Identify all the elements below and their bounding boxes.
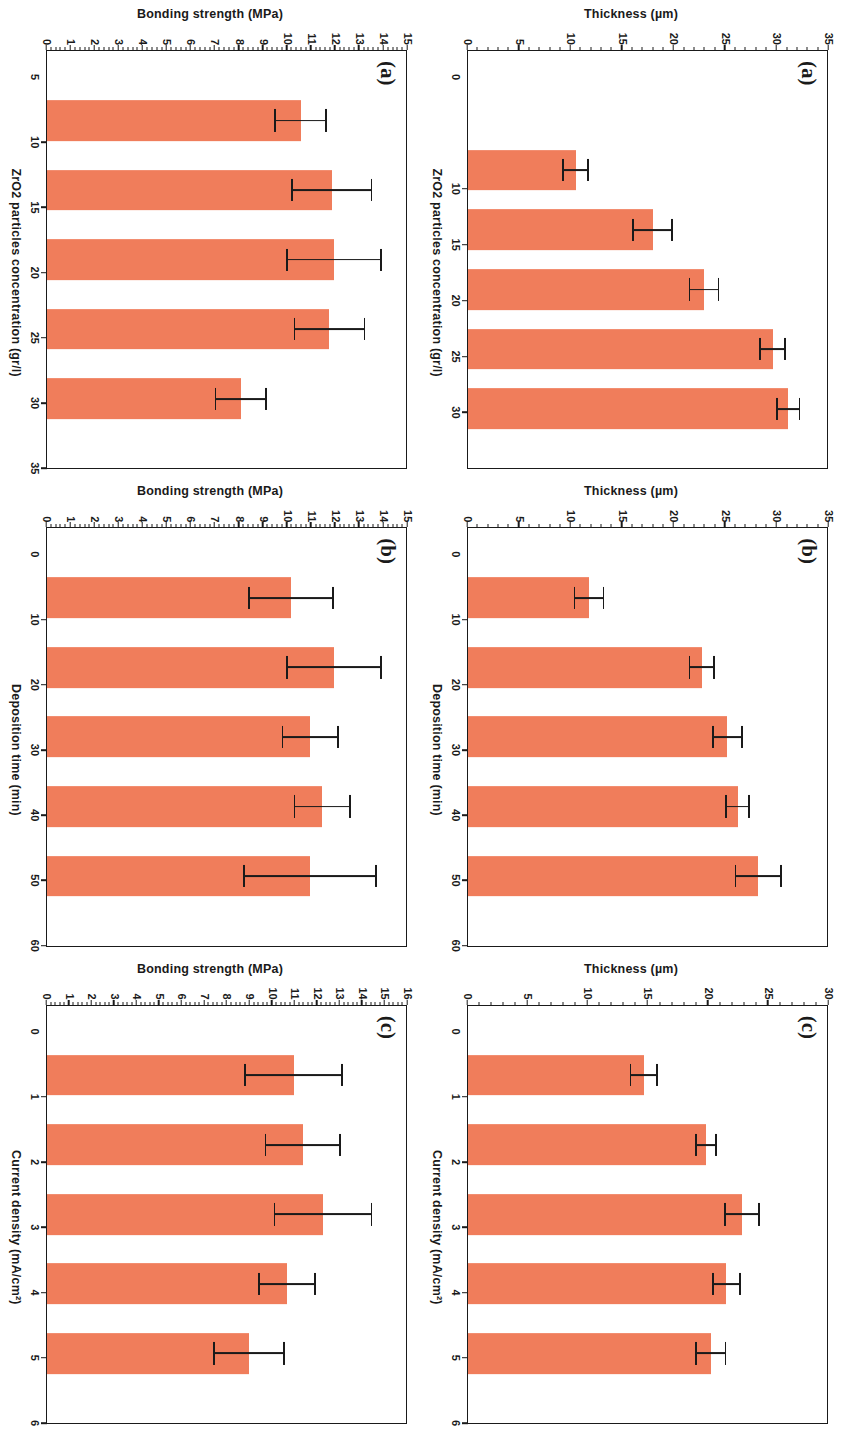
y-axis-label-text: Thickness (µm) <box>584 962 678 976</box>
y-tick-column-c-bonding: 012345678910111213141516 <box>46 979 407 1005</box>
error-bar <box>286 656 382 678</box>
x-tick-mark <box>41 1357 47 1359</box>
y-tick-label: 10 <box>582 987 593 999</box>
error-bar <box>725 795 750 817</box>
x-tick-mark <box>41 337 47 339</box>
y-tick-label: 11 <box>305 511 316 523</box>
bar-slot <box>468 635 827 701</box>
error-bar-cap-top <box>314 1273 316 1295</box>
error-bar-line <box>562 169 589 171</box>
plot-box-b-thickness: 1020304050600Deposition time (min)(b) <box>467 527 828 946</box>
x-origin-label: 0 <box>450 1029 462 1035</box>
y-tick-label: 13 <box>353 510 364 522</box>
y-tick-label: 20 <box>668 33 679 45</box>
x-tick-row-b-thickness: 1020304050600 <box>442 554 468 945</box>
x-axis-label-a-thickness: ZrO2 particles concentration (gr/l) <box>430 77 444 468</box>
plot-box-c-thickness: 1234560Current density (mA/cm²)(c) <box>467 1005 828 1424</box>
x-tick-row-c-bonding: 1234560 <box>21 1032 47 1423</box>
plot-box-b-bonding: 1020304050600Deposition time (min)(b) <box>46 527 407 946</box>
error-bar <box>574 587 605 609</box>
plot-area-b-bonding: 01234567891011121314151020304050600Depos… <box>46 501 407 946</box>
error-bar-line <box>244 1074 343 1076</box>
y-tick-label: 10 <box>565 510 576 522</box>
bar-series-b-thickness <box>468 528 827 945</box>
error-bar-cap-top <box>603 587 605 609</box>
error-bar <box>294 795 351 817</box>
error-bar-cap-bottom <box>632 219 634 241</box>
bar-slot <box>468 565 827 631</box>
y-tick-column-b-thickness: 05101520253035 <box>467 501 828 527</box>
chart-c-thickness: Thickness (µm)0510152025301234560Current… <box>421 955 842 1432</box>
x-tick-label: 15 <box>29 201 41 213</box>
y-tick-label: 35 <box>823 33 834 45</box>
error-bar-line <box>274 1213 373 1215</box>
error-bar-cap-bottom <box>265 1134 267 1156</box>
bar <box>47 717 310 758</box>
x-tick-mark <box>462 880 468 882</box>
error-bar-line <box>632 229 673 231</box>
x-tick-label: 10 <box>29 136 41 148</box>
x-axis-label-c-thickness: Current density (mA/cm²) <box>430 1032 444 1423</box>
bar <box>47 786 322 827</box>
error-bar-cap-top <box>671 219 673 241</box>
error-bar <box>244 1064 343 1086</box>
error-bar-cap-bottom <box>294 795 296 817</box>
error-bar-line <box>294 328 366 330</box>
error-bar <box>689 656 716 678</box>
error-bar-cap-top <box>739 1273 741 1295</box>
error-bar <box>724 1203 760 1225</box>
y-tick-label: 35 <box>823 510 834 522</box>
x-tick-mark <box>462 1357 468 1359</box>
error-bar-line <box>243 875 377 877</box>
error-bar <box>632 219 673 241</box>
x-tick-row-a-bonding: 1015202530355 <box>21 77 47 468</box>
error-bar-cap-bottom <box>712 1273 714 1295</box>
y-axis-label-text: Bonding strength (MPa) <box>137 7 283 21</box>
bar-series-b-bonding <box>47 528 406 945</box>
x-axis-label-b-thickness: Deposition time (min) <box>430 554 444 945</box>
error-bar <box>776 398 801 420</box>
x-tick-mark <box>41 141 47 143</box>
x-tick-row-b-bonding: 1020304050600 <box>21 554 47 945</box>
panel-letter-c-bonding: (c) <box>375 1016 400 1039</box>
bar-series-a-thickness <box>468 51 827 468</box>
plot-box-a-bonding: 1015202530355ZrO2 particles concentratio… <box>46 50 407 469</box>
plot-area-c-bonding: 0123456789101112131415161234560Current d… <box>46 979 407 1424</box>
bar-slot <box>47 1181 406 1247</box>
y-tick-label: 11 <box>305 33 316 45</box>
error-bar-cap-top <box>265 388 267 410</box>
error-bar-cap-top <box>349 795 351 817</box>
bar <box>468 1264 726 1305</box>
figure-stage: Thickness (µm)0510152025303510152025300Z… <box>0 0 842 1432</box>
error-bar-line <box>215 398 268 400</box>
y-axis-label-a-bonding: Bonding strength (MPa) <box>0 4 421 24</box>
panel-letter-a-bonding: (a) <box>375 61 400 86</box>
bar <box>47 170 332 211</box>
x-tick-label: 30 <box>450 406 462 418</box>
error-bar-cap-top <box>332 587 334 609</box>
x-tick-label: 60 <box>29 940 41 952</box>
y-tick-label: 25 <box>719 33 730 45</box>
error-bar <box>712 1273 741 1295</box>
error-bar-cap-bottom <box>574 587 576 609</box>
y-tick-label: 15 <box>379 987 390 999</box>
y-tick-label: 30 <box>771 33 782 45</box>
y-tick-label: 12 <box>311 987 322 999</box>
y-tick-label: 15 <box>642 987 653 999</box>
x-tick-mark <box>41 814 47 816</box>
error-bar-line <box>630 1074 659 1076</box>
x-tick-label: 60 <box>450 940 462 952</box>
error-bar-line <box>695 1144 717 1146</box>
bar <box>468 388 788 429</box>
x-tick-mark <box>41 1292 47 1294</box>
x-origin-label: 5 <box>29 74 41 80</box>
x-tick-label: 30 <box>450 744 462 756</box>
x-tick-label: 25 <box>450 350 462 362</box>
error-bar-cap-bottom <box>282 726 284 748</box>
y-axis-label-b-bonding: Bonding strength (MPa) <box>0 481 421 501</box>
x-tick-label: 25 <box>29 332 41 344</box>
x-tick-mark <box>462 1422 468 1424</box>
plot-box-a-thickness: 10152025300ZrO2 particles concentration … <box>467 50 828 469</box>
bar-series-c-bonding <box>47 1006 406 1423</box>
x-tick-mark <box>462 684 468 686</box>
